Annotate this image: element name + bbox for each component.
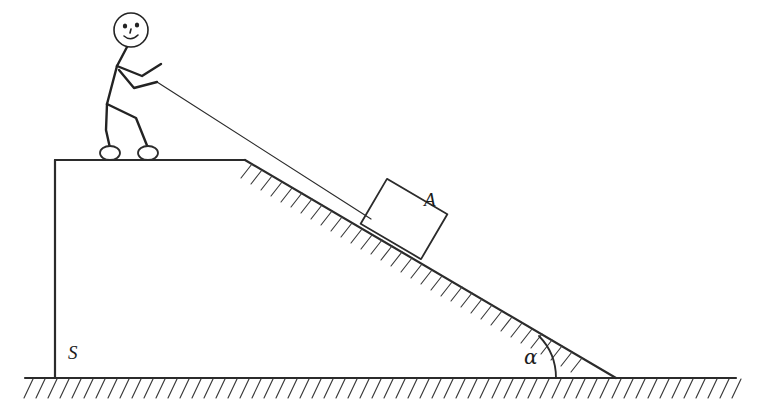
height-label: S: [68, 342, 78, 363]
physics-diagram: A S α: [0, 0, 763, 420]
block-label: A: [422, 189, 436, 210]
ground-hatching: [24, 379, 741, 398]
ground-icon: [24, 378, 741, 398]
angle-label: α: [524, 345, 538, 369]
stick-figure-icon: [100, 13, 161, 160]
diagram-canvas: A S α: [0, 0, 763, 420]
rope-icon: [157, 82, 371, 219]
